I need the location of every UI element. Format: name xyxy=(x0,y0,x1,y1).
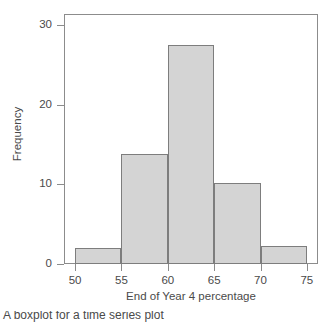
y-axis-tick xyxy=(57,184,64,185)
histogram-figure: 0 10 20 30 Frequency 50 55 60 65 70 75 E… xyxy=(0,0,335,322)
y-axis-tick-label: 20 xyxy=(39,99,52,111)
x-axis-tick xyxy=(168,264,169,271)
y-axis-tick-label: 0 xyxy=(46,258,52,270)
y-axis-tick-label: 10 xyxy=(39,178,52,190)
y-axis-tick-label: 30 xyxy=(39,19,52,31)
x-axis-tick xyxy=(261,264,262,271)
histogram-bar[interactable] xyxy=(121,154,167,264)
x-axis-tick-label: 70 xyxy=(241,274,281,286)
x-axis-tick xyxy=(75,264,76,271)
x-axis-tick-label: 60 xyxy=(148,274,188,286)
histogram-bar[interactable] xyxy=(168,45,214,264)
y-axis-tick xyxy=(57,264,64,265)
plot-area xyxy=(64,14,318,264)
x-axis-title: End of Year 4 percentage xyxy=(64,290,318,302)
x-axis-tick xyxy=(121,264,122,271)
x-axis-tick-label: 65 xyxy=(194,274,234,286)
histogram-bar[interactable] xyxy=(75,248,121,264)
figure-caption: A boxplot for a time series plot xyxy=(0,311,335,322)
x-axis-tick xyxy=(214,264,215,271)
histogram-bar[interactable] xyxy=(261,246,307,264)
figure-caption-text: A boxplot for a time series plot xyxy=(3,311,164,322)
y-axis-title: Frequency xyxy=(11,74,23,194)
x-axis-tick xyxy=(307,264,308,271)
x-axis-tick-label: 75 xyxy=(287,274,327,286)
y-axis-tick xyxy=(57,105,64,106)
x-axis-tick-label: 55 xyxy=(101,274,141,286)
y-axis-tick xyxy=(57,25,64,26)
x-axis-tick-label: 50 xyxy=(55,274,95,286)
histogram-bar[interactable] xyxy=(214,183,260,264)
